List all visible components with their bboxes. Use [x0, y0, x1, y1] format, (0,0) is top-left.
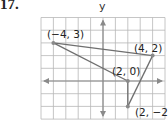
coordinate-plane: (−4, 3) (4, 2) (2, 0) (2, −2) [0, 0, 168, 122]
point-labels: (−4, 3) (4, 2) (2, 0) (2, −2) [47, 28, 168, 118]
point-marker [151, 54, 155, 58]
point-marker [126, 104, 130, 108]
point-label: (2, −2) [135, 106, 168, 118]
point-label: (4, 2) [134, 42, 162, 54]
point-label: (2, 0) [112, 65, 140, 77]
point-marker [126, 79, 130, 83]
point-label: (−4, 3) [47, 28, 84, 40]
point-marker [51, 41, 55, 45]
